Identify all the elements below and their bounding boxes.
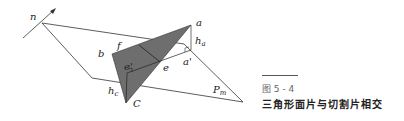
caption-rule — [262, 75, 298, 76]
label-h-a: ha — [195, 35, 206, 48]
label-a: a — [196, 17, 202, 28]
label-P: Pm — [212, 84, 227, 97]
label-f: f — [116, 40, 123, 51]
label-e-prime: e' — [124, 61, 133, 72]
label-a-prime: a' — [183, 56, 192, 67]
label-h-c: hc — [108, 85, 118, 98]
label-b: b — [98, 48, 104, 59]
figure-number: 图 5 - 4 — [262, 82, 294, 95]
label-e: e — [163, 62, 169, 73]
label-n: n — [30, 11, 36, 22]
figure-title: 三角形面片与切割片相交 — [262, 96, 383, 111]
label-C: C — [133, 98, 141, 109]
